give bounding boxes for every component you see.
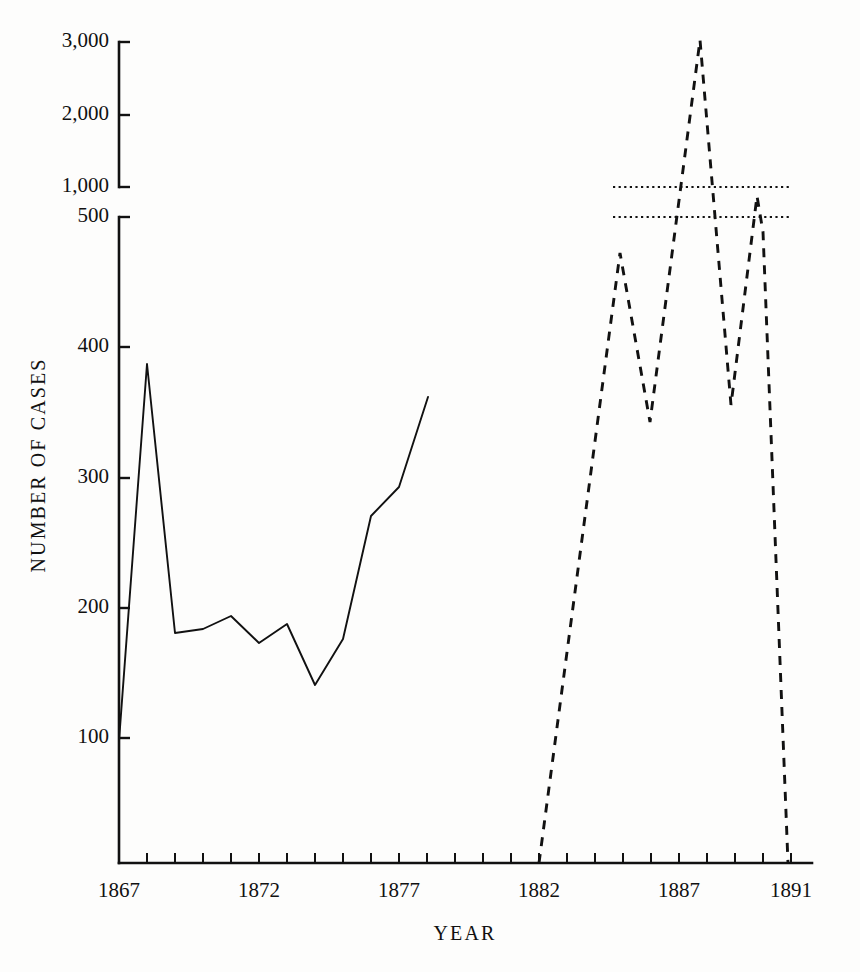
y-tick-label-1000: 1,000 xyxy=(62,173,109,197)
y-axis-title: NUMBER OF CASES xyxy=(27,358,49,573)
y-tick-label-500: 500 xyxy=(78,203,110,227)
x-axis-title: YEAR xyxy=(434,922,497,944)
y-axis-lower-segment xyxy=(119,217,130,863)
y-tick-label-300: 300 xyxy=(78,464,110,488)
x-axis xyxy=(119,853,812,863)
series-line-observed xyxy=(119,364,428,741)
y-tick-label-200: 200 xyxy=(78,594,110,618)
x-tick-label-1872: 1872 xyxy=(238,878,280,902)
y-axis-upper-segment xyxy=(119,42,130,187)
x-tick-label-1867: 1867 xyxy=(98,878,140,902)
x-tick-label-1887: 1887 xyxy=(658,878,700,902)
x-tick-label-1877: 1877 xyxy=(378,878,420,902)
y-tick-label-2000: 2,000 xyxy=(62,101,109,125)
x-tick-label-1882: 1882 xyxy=(518,878,560,902)
y-tick-label-100: 100 xyxy=(78,724,110,748)
y-tick-label-400: 400 xyxy=(78,333,110,357)
line-chart: 3,000 2,000 1,000 500 400 300 200 100 xyxy=(0,0,860,972)
x-tick-label-1891: 1891 xyxy=(770,878,812,902)
y-tick-label-3000: 3,000 xyxy=(62,28,109,52)
figure-canvas: 3,000 2,000 1,000 500 400 300 200 100 xyxy=(0,0,860,972)
series-line-projected xyxy=(539,40,788,863)
